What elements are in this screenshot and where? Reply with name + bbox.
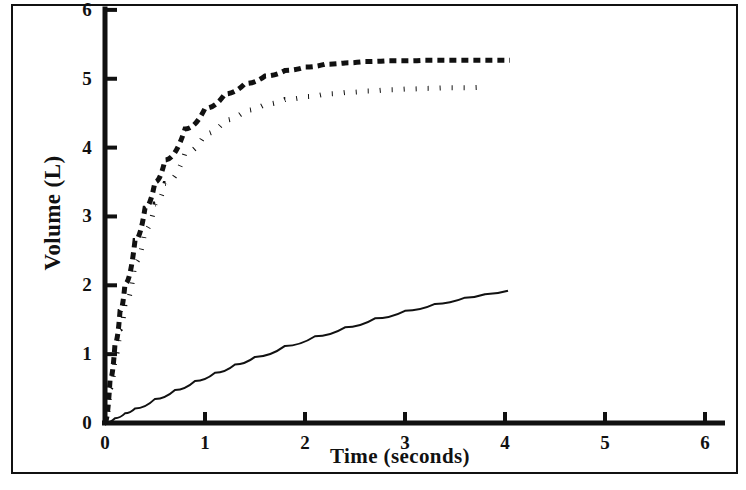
x-tick-label: 5 bbox=[595, 433, 615, 452]
y-tick-label: 5 bbox=[77, 69, 97, 88]
y-tick-label: 6 bbox=[77, 0, 97, 19]
y-axis-title: Volume (L) bbox=[40, 138, 66, 288]
figure-root: 01234560123456 Time (seconds) Volume (L) bbox=[0, 0, 746, 490]
y-tick-label: 1 bbox=[77, 344, 97, 363]
series-upper-dashed-curve bbox=[105, 60, 510, 423]
x-tick-label: 4 bbox=[495, 433, 515, 452]
series-group bbox=[105, 60, 510, 423]
chart-canvas bbox=[0, 0, 746, 490]
x-tick-label: 6 bbox=[695, 433, 715, 452]
y-tick-label: 2 bbox=[77, 275, 97, 294]
y-tick-label: 3 bbox=[77, 206, 97, 225]
series-middle-dotted-curve bbox=[105, 87, 483, 423]
series-lower-solid-curve bbox=[105, 291, 508, 423]
axes-group bbox=[102, 6, 725, 425]
x-tick-label: 1 bbox=[195, 433, 215, 452]
x-tick-label: 2 bbox=[295, 433, 315, 452]
y-tick-label: 4 bbox=[77, 138, 97, 157]
x-tick-label: 0 bbox=[95, 433, 115, 452]
x-axis-title: Time (seconds) bbox=[330, 444, 470, 469]
y-tick-label: 0 bbox=[77, 413, 97, 432]
